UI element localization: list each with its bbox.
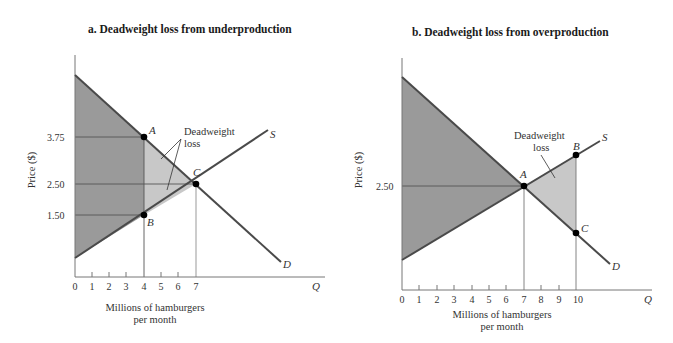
- point-b: [573, 152, 580, 159]
- surplus-region: [75, 75, 144, 258]
- point-a-label: A: [148, 124, 156, 136]
- deadweight-loss-figure: a. Deadweight loss from underproduction: [0, 0, 673, 343]
- svg-text:9: 9: [557, 294, 562, 305]
- svg-text:7: 7: [194, 281, 199, 292]
- svg-text:4: 4: [470, 294, 475, 305]
- svg-text:3: 3: [124, 281, 129, 292]
- surplus-region: [402, 77, 524, 260]
- svg-text:2: 2: [435, 294, 440, 305]
- svg-text:0: 0: [400, 294, 405, 305]
- point-a-label: A: [519, 168, 527, 180]
- y-tick-250: 2.50: [47, 179, 65, 190]
- supply-label: S: [602, 131, 608, 143]
- panel-b: b. Deadweight loss from overproduction A…: [353, 26, 652, 332]
- point-c-label: C: [581, 222, 589, 234]
- point-c: [573, 230, 580, 237]
- svg-text:5: 5: [159, 281, 164, 292]
- svg-text:1: 1: [417, 294, 422, 305]
- panel-a: a. Deadweight loss from underproduction: [26, 23, 325, 325]
- svg-text:4: 4: [142, 281, 147, 292]
- x-tick-labels: 0 1 2 3 4 5 6 7 8 9 10: [400, 294, 584, 305]
- svg-text:5: 5: [487, 294, 492, 305]
- x-ticks: [92, 272, 178, 277]
- x-tick-labels: 0 1 2 3 4 5 6 7: [73, 281, 199, 292]
- svg-text:0: 0: [73, 281, 78, 292]
- y-axis-title: Price ($): [353, 151, 365, 188]
- x-axis-q-label: Q: [644, 293, 652, 305]
- panel-a-title: a. Deadweight loss from underproduction: [88, 23, 292, 36]
- x-axis-title-line1: Millions of hamburgers: [106, 302, 205, 313]
- demand-label: D: [282, 258, 291, 270]
- x-axis-q-label: Q: [312, 280, 320, 292]
- y-axis-title: Price ($): [26, 151, 38, 188]
- deadweight-annotation-line1: Deadweight: [184, 126, 235, 137]
- y-tick-250: 2.50: [376, 181, 394, 192]
- svg-text:7: 7: [522, 294, 527, 305]
- point-b-label: B: [573, 140, 580, 152]
- point-a: [521, 183, 528, 190]
- deadweight-annotation-line1: Deadweight: [514, 130, 565, 141]
- svg-text:10: 10: [573, 294, 583, 305]
- y-tick-150: 1.50: [47, 210, 65, 221]
- point-b-label: B: [147, 216, 154, 228]
- panel-b-title: b. Deadweight loss from overproduction: [412, 26, 609, 39]
- x-axis-title-line2: per month: [134, 314, 178, 325]
- y-tick-375: 3.75: [47, 132, 65, 143]
- svg-text:2: 2: [107, 281, 112, 292]
- demand-label: D: [611, 260, 620, 272]
- svg-text:8: 8: [539, 294, 544, 305]
- svg-text:6: 6: [504, 294, 509, 305]
- x-ticks: [419, 285, 559, 290]
- deadweight-annotation-line2: loss: [533, 142, 549, 153]
- svg-text:3: 3: [452, 294, 457, 305]
- deadweight-annotation-line2: loss: [184, 138, 200, 149]
- point-c-label: C: [193, 166, 201, 178]
- point-c: [193, 181, 200, 188]
- supply-label: S: [270, 128, 276, 140]
- point-a: [141, 134, 148, 141]
- x-axis-title-line2: per month: [481, 321, 525, 332]
- x-axis-title-line1: Millions of hamburgers: [453, 309, 552, 320]
- svg-text:6: 6: [176, 281, 181, 292]
- svg-text:1: 1: [90, 281, 95, 292]
